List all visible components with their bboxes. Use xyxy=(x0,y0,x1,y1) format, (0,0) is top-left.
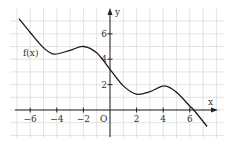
origin-label: O xyxy=(100,114,107,124)
x-axis-arrow-icon xyxy=(211,108,218,113)
function-graph: −6−4−2246246 x y O f(x) xyxy=(0,0,229,147)
plot-area: −6−4−2246246 x y O f(x) xyxy=(0,0,229,147)
x-tick-label: −2 xyxy=(77,114,90,124)
x-tick-label: −4 xyxy=(50,114,64,124)
x-tick-label: −6 xyxy=(24,114,38,124)
y-axis-label: y xyxy=(114,7,121,17)
y-tick-label: 6 xyxy=(101,29,107,39)
y-tick-label: 2 xyxy=(101,80,107,90)
x-tick-label: 2 xyxy=(134,114,140,124)
x-axis-label: x xyxy=(208,97,213,107)
x-tick-label: 6 xyxy=(187,114,193,124)
curve-label: f(x) xyxy=(23,48,38,58)
x-tick-label: 4 xyxy=(160,114,166,124)
y-axis-arrow-icon xyxy=(108,8,113,15)
